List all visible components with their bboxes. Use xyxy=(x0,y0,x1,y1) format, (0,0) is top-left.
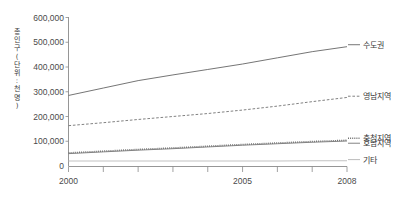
y-axis-title-char: 위 xyxy=(14,69,20,77)
y-axis-title-char: 인 xyxy=(14,35,20,44)
series-label: 기타 xyxy=(363,156,378,165)
y-axis-title-char: 구 xyxy=(14,44,21,52)
y-axis-title-char: ) xyxy=(16,102,19,110)
y-axis-tick-label: 100,000 xyxy=(33,136,64,146)
y-axis-tick-label: 500,000 xyxy=(33,37,64,47)
x-axis-tick-label: 2005 xyxy=(233,176,252,186)
series-labels: 수도권영남지역충청지역호남지역기타 xyxy=(348,40,391,165)
x-axis-tick-label: 2000 xyxy=(59,176,78,186)
y-axis-tick-label: 400,000 xyxy=(33,62,64,72)
series-label: 호남지역 xyxy=(363,138,391,148)
y-axis-tick-label: 600,000 xyxy=(33,13,64,23)
y-axis-tick-labels: 0100,000200,000300,000400,000500,000600,… xyxy=(33,13,64,172)
series-lines xyxy=(69,47,348,161)
x-axis-tick-marks xyxy=(69,167,348,173)
y-axis-title-char: 단 xyxy=(14,60,21,69)
y-axis-title-char: : xyxy=(16,77,18,85)
y-axis-tick-label: 0 xyxy=(59,161,64,171)
y-axis-title-char: 총 xyxy=(14,27,21,36)
y-axis-title-char: 명 xyxy=(14,93,20,102)
y-axis-title-char: ( xyxy=(16,53,19,61)
y-axis-tick-label: 300,000 xyxy=(33,87,64,97)
y-axis-title: 총인구(단위:천명) xyxy=(14,27,21,110)
series-line xyxy=(69,47,348,96)
series-label: 영남지역 xyxy=(363,91,391,101)
y-axis-title-char: 천 xyxy=(14,84,20,93)
series-line xyxy=(69,97,348,125)
line-chart: 총인구(단위:천명) 0100,000200,000300,000400,000… xyxy=(0,0,399,202)
series-line xyxy=(69,141,348,154)
y-axis-tick-label: 200,000 xyxy=(33,112,64,122)
x-axis-tick-label: 2008 xyxy=(338,176,357,186)
series-label: 수도권 xyxy=(363,40,384,50)
x-axis-tick-labels: 200020052008 xyxy=(59,176,357,186)
chart-canvas: 총인구(단위:천명) 0100,000200,000300,000400,000… xyxy=(0,0,399,202)
